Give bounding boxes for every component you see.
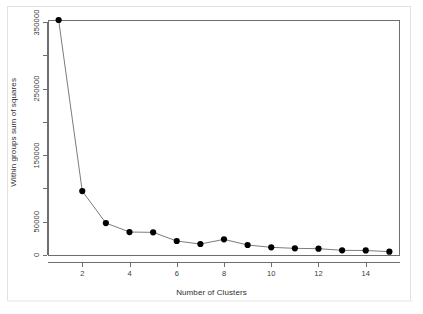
data-point-marker [103, 220, 109, 226]
data-point-marker [339, 247, 345, 253]
x-axis-tick [130, 263, 131, 267]
x-axis-tick [177, 263, 178, 267]
y-axis-tick [43, 222, 47, 223]
data-point-marker [363, 247, 369, 253]
x-axis-tick-label: 4 [127, 269, 131, 278]
x-axis-tick-label: 12 [314, 269, 322, 278]
y-axis-tick [43, 155, 47, 156]
figure-card-shadow [8, 300, 412, 302]
x-axis-tick-label: 10 [267, 269, 275, 278]
y-axis-tick-label: 0 [32, 250, 41, 259]
y-axis-tick [43, 22, 47, 23]
y-axis-tick-label: 50000 [32, 207, 41, 237]
x-axis-tick-label: 2 [80, 269, 84, 278]
data-point-marker [126, 229, 132, 235]
x-axis-tick [271, 263, 272, 267]
chart-figure: Within groups sum of squares 05000015000… [0, 0, 423, 314]
y-axis-tick [43, 122, 47, 123]
y-axis-tick [43, 188, 47, 189]
data-point-marker [197, 241, 203, 247]
data-point-marker [150, 229, 156, 235]
data-point-marker [386, 249, 392, 255]
series-line [59, 20, 390, 252]
data-point-marker [221, 236, 227, 242]
x-axis-title: Number of Clusters [0, 288, 423, 297]
y-axis-tick [43, 55, 47, 56]
y-axis-tick-label: 150000 [32, 138, 41, 173]
data-point-marker [292, 245, 298, 251]
plot-area [48, 20, 400, 256]
x-axis-tick [82, 263, 83, 267]
x-axis-tick-label: 8 [222, 269, 226, 278]
x-axis-tick-label: 14 [362, 269, 370, 278]
data-point-marker [56, 17, 62, 23]
data-point-marker [268, 244, 274, 250]
data-point-marker [245, 242, 251, 248]
data-point-marker [79, 188, 85, 194]
x-axis-tick [366, 263, 367, 267]
x-axis-tick [224, 263, 225, 267]
x-axis-tick [318, 263, 319, 267]
data-point-marker [174, 238, 180, 244]
line-series-layer [48, 20, 400, 256]
y-axis-tick-label: 350000 [32, 5, 41, 40]
x-axis-tick-label: 6 [175, 269, 179, 278]
data-point-marker [315, 246, 321, 252]
y-axis-tick-label: 250000 [32, 71, 41, 106]
y-axis-tick [43, 255, 47, 256]
y-axis-tick [43, 89, 47, 90]
y-axis-title: Within groups sum of squares [9, 78, 18, 187]
